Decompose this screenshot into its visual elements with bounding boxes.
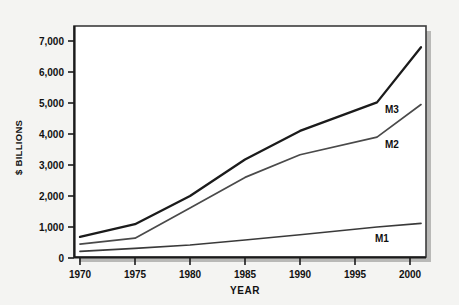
series-label-m1: M1 — [375, 233, 389, 244]
series-label-m3: M3 — [385, 104, 399, 115]
x-tick-label: 1970 — [69, 269, 92, 280]
x-axis-title: YEAR — [230, 285, 260, 296]
series-label-m2: M2 — [385, 139, 399, 150]
y-tick-label: 3,000 — [39, 160, 64, 171]
x-tick-label: 2000 — [399, 269, 422, 280]
y-tick-label: 7,000 — [39, 36, 64, 47]
x-tick-label: 1990 — [289, 269, 312, 280]
x-tick-label: 1995 — [344, 269, 367, 280]
y-axis-title: $ BILLIONS — [13, 120, 24, 175]
line-chart: 0 1,000 2,000 3,000 4,000 5,000 6,000 7,… — [0, 0, 459, 305]
plot-area — [74, 26, 426, 257]
y-tick-label: 5,000 — [39, 98, 64, 109]
x-tick-label: 1985 — [234, 269, 257, 280]
x-tick-label: 1980 — [179, 269, 202, 280]
x-tick-label: 1975 — [124, 269, 147, 280]
y-tick-label: 6,000 — [39, 67, 64, 78]
y-tick-label: 2,000 — [39, 191, 64, 202]
y-tick-label: 0 — [58, 253, 64, 264]
y-tick-label: 4,000 — [39, 129, 64, 140]
y-tick-label: 1,000 — [39, 222, 64, 233]
chart-figure: 0 1,000 2,000 3,000 4,000 5,000 6,000 7,… — [0, 0, 459, 305]
